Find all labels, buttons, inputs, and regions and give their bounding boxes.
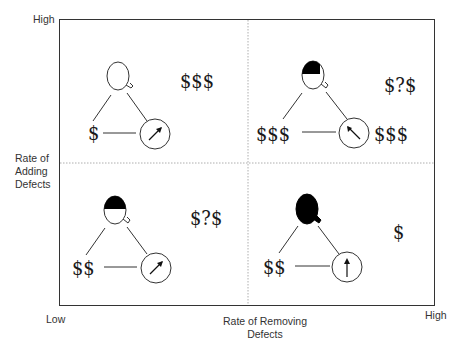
triangle-bottom-right: [279, 194, 362, 282]
x-axis-high: High: [425, 309, 447, 322]
cost-bottom-right: $$: [263, 256, 286, 278]
quality-q-icon-full: [296, 194, 321, 224]
cost-bottom-left: $$: [72, 257, 95, 279]
x-axis-title-line2: Defects: [210, 328, 320, 341]
outcome-bottom-right: $: [393, 221, 404, 243]
x-axis-title-line1: Rate of Removing: [210, 315, 320, 328]
y-axis-title-line2: Adding: [15, 165, 51, 178]
x-axis-low: Low: [46, 313, 65, 326]
speed-gauge-icon: [339, 118, 369, 148]
diagram-graphics: [0, 0, 462, 349]
quality-q-icon-half: [104, 196, 130, 224]
quality-q-icon-half: [302, 61, 328, 89]
y-axis-high: High: [33, 13, 55, 26]
speed-gauge-icon: [140, 119, 170, 149]
outcome-top-left: $$$: [180, 70, 214, 92]
triangle-bottom-left: [86, 196, 171, 283]
cost-top-right: $$$: [256, 123, 290, 145]
cost-top-left: $: [88, 122, 99, 144]
speed-cost-top-right: $$$: [374, 123, 408, 145]
y-axis-title: Rate of Adding Defects: [15, 152, 51, 191]
quality-q-icon-empty: [107, 62, 133, 90]
y-axis-title-line3: Defects: [15, 178, 51, 191]
speed-gauge-icon: [141, 253, 171, 283]
outcome-bottom-left: $?$: [190, 207, 222, 229]
x-axis-title: Rate of Removing Defects: [210, 315, 320, 341]
triangle-top-right: [283, 61, 369, 148]
speed-gauge-icon: [332, 252, 362, 282]
y-axis-title-line1: Rate of: [15, 152, 51, 165]
triangle-top-left: [93, 62, 170, 149]
outcome-top-right: $?$: [384, 74, 416, 96]
